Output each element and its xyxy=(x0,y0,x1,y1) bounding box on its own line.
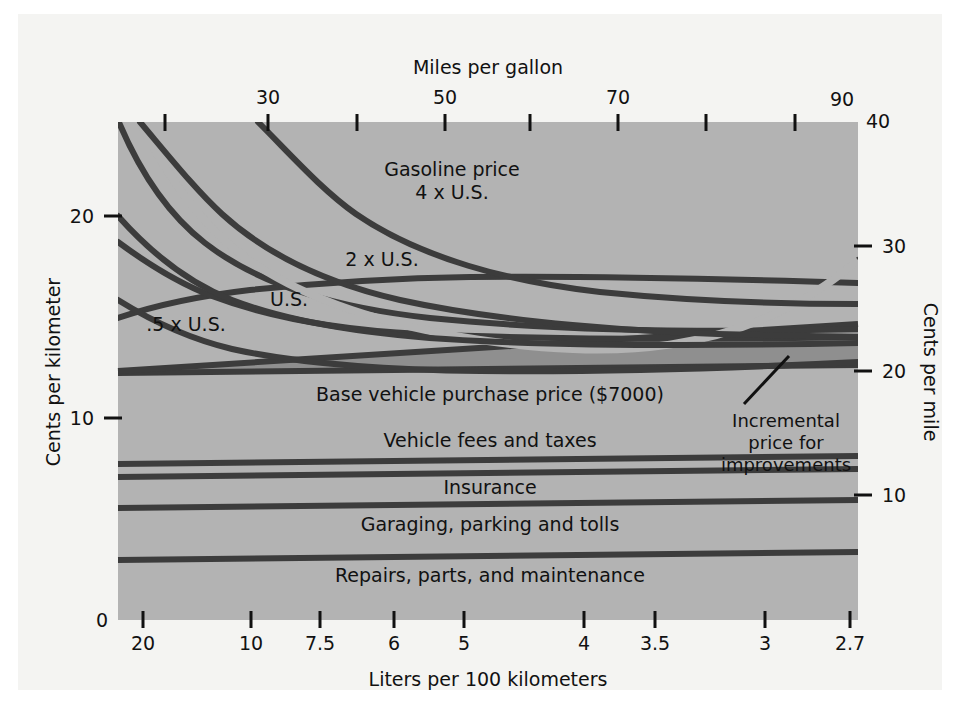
curve-label-us: U.S. xyxy=(270,288,308,310)
curve-label-four-times-us: 4 x U.S. xyxy=(415,181,488,203)
band-label-base-vehicle-purchase-price: Base vehicle purchase price ($7000) xyxy=(316,383,664,405)
incremental-annotation-line-2: price for xyxy=(748,432,824,453)
bottom-tick-label-10: 10 xyxy=(239,632,263,654)
bottom-tick-label-7-5: 7.5 xyxy=(305,632,335,654)
bottom-tick-label-5: 5 xyxy=(458,632,470,654)
figure-page: 30 50 70 90 Miles per gallon 20 10 7.5 6… xyxy=(0,0,960,725)
left-tick-label-10: 10 xyxy=(70,407,94,429)
band-label-repairs-parts-maintenance: Repairs, parts, and maintenance xyxy=(335,564,645,586)
bottom-tick-label-3: 3 xyxy=(759,632,771,654)
left-axis-title: Cents per kilometer xyxy=(42,278,64,467)
top-tick-label-90: 90 xyxy=(830,88,854,110)
right-tick-label-10: 10 xyxy=(882,484,906,506)
band-label-vehicle-fees-and-taxes: Vehicle fees and taxes xyxy=(383,429,596,451)
band-label-insurance: Insurance xyxy=(443,476,536,498)
curve-group-label: Gasoline price xyxy=(384,158,520,180)
top-tick-label-50: 50 xyxy=(433,86,457,108)
right-tick-label-30: 30 xyxy=(882,235,906,257)
right-tick-label-40: 40 xyxy=(866,110,890,132)
incremental-annotation-line-3: improvements xyxy=(721,454,851,475)
curve-label-point-five-times-us: .5 x U.S. xyxy=(146,313,226,335)
incremental-annotation-line-1: Incremental xyxy=(732,410,840,431)
bottom-tick-label-2-7: 2.7 xyxy=(835,632,865,654)
left-tick-label-0: 0 xyxy=(96,609,108,631)
band-label-garaging-parking-tolls: Garaging, parking and tolls xyxy=(361,513,620,535)
bottom-tick-label-20: 20 xyxy=(131,632,155,654)
left-tick-label-20: 20 xyxy=(70,205,94,227)
right-tick-label-20: 20 xyxy=(882,360,906,382)
top-axis-title: Miles per gallon xyxy=(413,56,563,78)
curve-label-two-times-us: 2 x U.S. xyxy=(345,248,418,270)
bottom-tick-label-3-5: 3.5 xyxy=(640,632,670,654)
bottom-tick-label-6: 6 xyxy=(388,632,400,654)
right-axis-title: Cents per mile xyxy=(920,303,942,442)
top-tick-label-70: 70 xyxy=(606,86,630,108)
vehicle-operating-cost-chart: 30 50 70 90 Miles per gallon 20 10 7.5 6… xyxy=(0,0,960,725)
top-tick-label-30: 30 xyxy=(256,86,280,108)
bottom-axis-title: Liters per 100 kilometers xyxy=(369,668,608,690)
bottom-tick-label-4: 4 xyxy=(578,632,590,654)
